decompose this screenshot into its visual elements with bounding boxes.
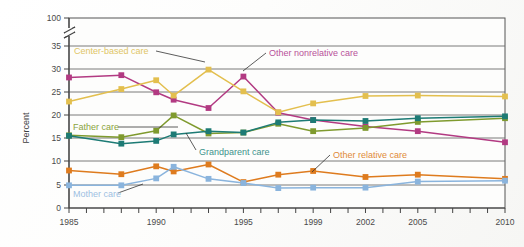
series-label-mother-care: Mother care [73, 189, 121, 199]
data-point-grandparent-care-1990 [153, 138, 159, 144]
x-tick-label-2010: 2010 [496, 217, 515, 227]
data-point-center-based-care-1997 [275, 109, 281, 115]
y-tick-marks [64, 18, 69, 208]
x-tick-marks [69, 208, 505, 213]
data-point-center-based-care-1988 [118, 86, 124, 92]
data-point-other-nonrelative-care-1990 [153, 89, 159, 95]
data-point-mother-care-1988 [118, 182, 124, 188]
y-tick-label-35: 35 [52, 41, 62, 51]
y-tick-label-10: 10 [52, 156, 62, 166]
data-point-grandparent-care-1999 [310, 117, 316, 123]
data-point-grandparent-care-1985 [66, 133, 72, 139]
y-tick-label-25: 25 [52, 87, 62, 97]
y-tick-label-20: 20 [52, 110, 62, 120]
data-point-other-relative-care-1985 [66, 168, 72, 174]
data-point-mother-care-1991 [171, 164, 177, 170]
data-point-mother-care-1993 [206, 176, 212, 182]
data-point-mother-care-1997 [275, 185, 281, 191]
data-point-other-nonrelative-care-1988 [118, 72, 124, 78]
data-point-other-relative-care-1988 [118, 171, 124, 177]
data-point-grandparent-care-1995 [241, 130, 247, 136]
data-point-center-based-care-1990 [153, 77, 159, 83]
data-point-mother-care-2005 [415, 179, 421, 185]
data-point-mother-care-1995 [241, 180, 247, 186]
data-point-father-care-1991 [171, 113, 177, 119]
series-label-grandparent-care: Grandparent care [199, 147, 270, 157]
data-point-other-nonrelative-care-2005 [415, 128, 421, 134]
x-tick-labels: 1985199019951999200220052010 [60, 217, 515, 227]
data-point-father-care-2002 [363, 125, 369, 131]
data-point-other-nonrelative-care-1985 [66, 75, 72, 81]
data-point-grandparent-care-2002 [363, 118, 369, 124]
x-tick-label-2005: 2005 [408, 217, 427, 227]
data-point-other-relative-care-1990 [153, 163, 159, 169]
data-point-other-nonrelative-care-1993 [206, 105, 212, 111]
data-point-other-relative-care-2002 [363, 174, 369, 180]
x-tick-label-1990: 1990 [147, 217, 166, 227]
data-point-grandparent-care-2010 [502, 113, 508, 119]
y-tick-labels: 100 35 30 25 20 15 10 5 0 [47, 13, 61, 213]
x-tick-label-1985: 1985 [60, 217, 79, 227]
data-point-center-based-care-2002 [363, 93, 369, 99]
data-point-mother-care-1985 [66, 182, 72, 188]
data-point-center-based-care-1993 [206, 67, 212, 73]
data-point-father-care-1990 [153, 128, 159, 134]
data-point-grandparent-care-1997 [275, 119, 281, 125]
data-point-mother-care-1990 [153, 175, 159, 181]
y-tick-label-5: 5 [56, 180, 61, 190]
series-label-other-relative-care: Other relative care [333, 150, 407, 160]
data-point-father-care-1999 [310, 128, 316, 134]
data-point-mother-care-2002 [363, 185, 369, 191]
data-point-grandparent-care-1991 [171, 132, 177, 138]
y-tick-label-15: 15 [52, 133, 62, 143]
y-tick-label-30: 30 [52, 64, 62, 74]
data-point-father-care-1988 [118, 134, 124, 140]
x-tick-label-2002: 2002 [356, 217, 375, 227]
line-chart: 100 35 30 25 20 15 10 5 0 Percent 198519… [0, 0, 524, 247]
data-point-center-based-care-2010 [502, 94, 508, 100]
y-axis-title: Percent [21, 112, 31, 144]
data-point-grandparent-care-1993 [206, 128, 212, 134]
y-tick-label-100: 100 [47, 13, 61, 23]
data-point-other-nonrelative-care-1995 [241, 74, 247, 80]
data-point-other-nonrelative-care-2010 [502, 139, 508, 145]
chart-page: 100 35 30 25 20 15 10 5 0 Percent 198519… [0, 0, 524, 247]
data-point-mother-care-1999 [310, 185, 316, 191]
x-tick-label-1999: 1999 [304, 217, 323, 227]
data-point-grandparent-care-1988 [118, 141, 124, 147]
data-point-other-relative-care-1997 [275, 172, 281, 178]
y-tick-label-0: 0 [56, 203, 61, 213]
series-label-center-based-care: Center-based care [74, 46, 149, 56]
data-point-other-relative-care-1993 [206, 162, 212, 168]
data-point-other-relative-care-2005 [415, 172, 421, 178]
data-point-center-based-care-1991 [171, 93, 177, 99]
data-point-center-based-care-1999 [310, 100, 316, 106]
data-point-center-based-care-1995 [241, 88, 247, 94]
data-point-center-based-care-1985 [66, 99, 72, 105]
data-point-grandparent-care-2005 [415, 115, 421, 121]
x-tick-label-1995: 1995 [234, 217, 253, 227]
series-label-father-care: Father care [73, 122, 119, 132]
data-point-center-based-care-2005 [415, 93, 421, 99]
data-point-mother-care-2010 [502, 178, 508, 184]
series-label-other-nonrelative-care: Other nonrelative care [269, 48, 358, 58]
